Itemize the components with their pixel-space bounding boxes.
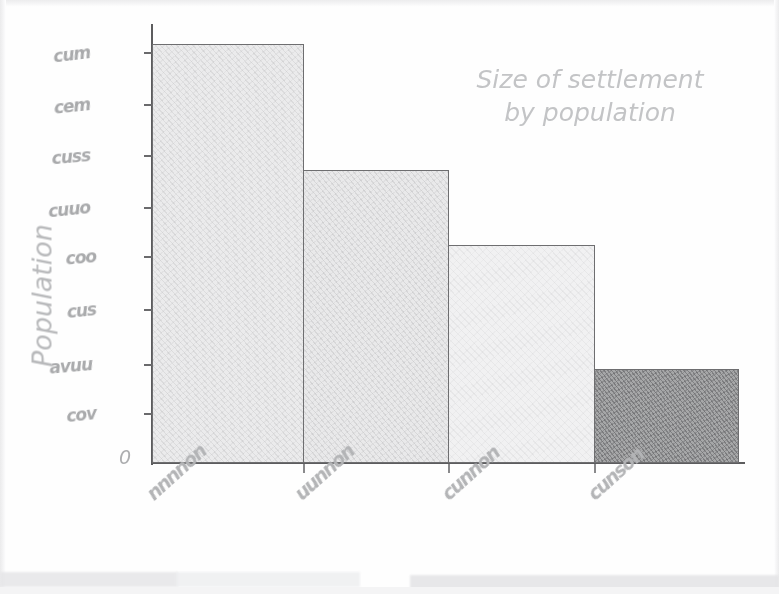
y-tick-label-8: cum	[29, 42, 91, 69]
bar-1[interactable]	[152, 44, 304, 463]
caption-block-left	[0, 572, 178, 587]
bar-3[interactable]	[448, 245, 595, 463]
bar-2[interactable]	[303, 170, 449, 463]
chart-title: Size of settlement by population	[430, 30, 750, 162]
caption-block-left-2	[176, 572, 360, 587]
caption-baseline	[0, 587, 779, 594]
paper-page: Size of settlement by population Populat…	[0, 0, 779, 594]
origin-label: 0	[119, 446, 131, 468]
bar-4[interactable]	[594, 369, 739, 463]
y-tick-label-7: cem	[29, 94, 91, 120]
bar-4-fill	[595, 370, 738, 462]
x-tick-mark-1	[303, 464, 305, 473]
y-tick-label-2: avuu	[31, 354, 93, 379]
chart-title-line-2: by population	[430, 96, 750, 129]
x-tick-mark-2	[448, 464, 450, 473]
bar-3-fill	[449, 246, 594, 462]
y-tick-label-5: cuuo	[29, 197, 91, 223]
y-tick-label-4: coo	[35, 246, 97, 271]
bar-1-fill	[153, 45, 303, 462]
y-tick-label-1: cov	[35, 403, 97, 429]
bar-2-fill	[304, 171, 448, 462]
bar-chart: Size of settlement by population Populat…	[0, 0, 779, 594]
x-tick-mark-3	[594, 464, 596, 473]
y-tick-label-6: cuss	[29, 145, 91, 170]
chart-title-line-1: Size of settlement	[476, 65, 703, 94]
